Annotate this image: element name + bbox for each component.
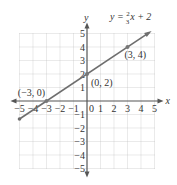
- x-tick-label: 5: [152, 103, 157, 114]
- y-tick-label: −4: [74, 150, 85, 161]
- x-tick-label: 4: [139, 103, 144, 114]
- x-tick-label: 1: [98, 103, 103, 114]
- y-tick-label: −2: [74, 123, 85, 134]
- y-tick-label: 4: [80, 42, 85, 53]
- y-tick-label: 3: [80, 55, 85, 66]
- data-point-label: (−3, 0): [18, 87, 45, 99]
- y-tick-label: 1: [80, 82, 85, 93]
- x-axis-label: x: [165, 95, 171, 106]
- y-axis-arrow-up: [85, 23, 90, 29]
- x-tick-label: 2: [112, 103, 117, 114]
- data-point-label: (0, 2): [91, 77, 113, 89]
- data-point: [45, 99, 49, 103]
- line-start-dot: [18, 117, 22, 121]
- y-tick-label: −3: [74, 136, 85, 147]
- y-axis-arrow-down: [85, 172, 90, 178]
- x-axis-arrow-right: [158, 99, 164, 104]
- y-tick-label: −1: [74, 109, 85, 120]
- x-tick-label: −5: [14, 103, 25, 114]
- y-tick-label: −5: [74, 163, 85, 174]
- data-point-label: (3, 4): [125, 49, 147, 61]
- origin-label: 0: [89, 103, 94, 114]
- equation-label: y = 23x + 2: [109, 10, 151, 26]
- x-tick-label: −3: [41, 103, 52, 114]
- x-tick-label: 3: [125, 103, 130, 114]
- y-tick-label: 5: [80, 28, 85, 39]
- x-tick-label: −2: [55, 103, 66, 114]
- linear-equation-graph: xy −5−4−3−2−11234554321−1−2−3−4−50 (−3, …: [0, 0, 177, 185]
- data-point: [85, 72, 89, 76]
- y-axis-label: y: [83, 12, 89, 23]
